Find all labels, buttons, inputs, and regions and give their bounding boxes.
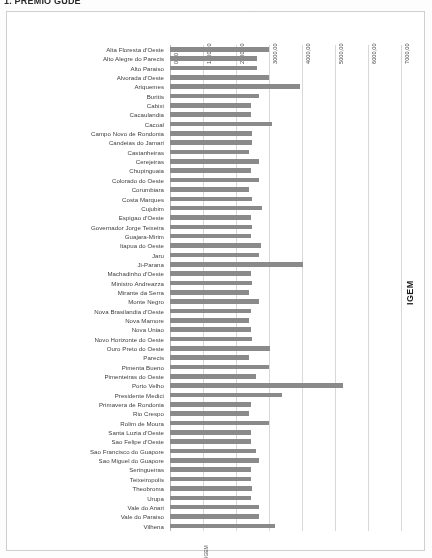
category-label: Cacaulandia [15, 110, 167, 119]
bar-row [170, 166, 417, 175]
bar [170, 327, 251, 332]
bar-row [170, 101, 417, 110]
bar-row [170, 344, 417, 353]
bar-row [170, 353, 417, 362]
bar-row [170, 176, 417, 185]
category-label: Corumbiara [15, 185, 167, 194]
bar [170, 411, 249, 416]
bar-row [170, 465, 417, 474]
bar [170, 477, 251, 482]
bottom-axis-label: IGEM [203, 545, 209, 558]
bar [170, 94, 259, 99]
bar-series-igem [170, 45, 417, 531]
bar-row [170, 251, 417, 260]
bar [170, 56, 257, 61]
bar [170, 75, 269, 80]
category-label: Espigao d'Oeste [15, 213, 167, 222]
bar [170, 430, 251, 435]
bar-row [170, 45, 417, 54]
bar-row [170, 419, 417, 428]
bar-row [170, 484, 417, 493]
bar [170, 421, 269, 426]
bar [170, 496, 251, 501]
bar [170, 355, 249, 360]
bar [170, 365, 269, 370]
plot-area [170, 45, 417, 531]
category-label: Novo Horizonte do Oeste [15, 335, 167, 344]
bar-row [170, 372, 417, 381]
category-label: Ministro Andreazza [15, 279, 167, 288]
bar-row [170, 335, 417, 344]
bar [170, 383, 343, 388]
category-label: Itapua do Oeste [15, 241, 167, 250]
bar [170, 271, 251, 276]
bar [170, 206, 262, 211]
bar [170, 84, 300, 89]
category-label: Vilhena [15, 522, 167, 531]
bar [170, 467, 251, 472]
chart-frame: 0,001000,002000,003000,004000,005000,006… [6, 11, 425, 551]
category-label: Sao Miguel do Guapore [15, 456, 167, 465]
bar-row [170, 241, 417, 250]
bar [170, 47, 269, 52]
bar-row [170, 223, 417, 232]
y-axis-category-labels: Alta Floresta d'OesteAlto Alegre do Pare… [15, 45, 167, 531]
category-label: Buritis [15, 92, 167, 101]
bar [170, 299, 259, 304]
category-label: Campo Novo de Rondonia [15, 129, 167, 138]
bar-row [170, 456, 417, 465]
bar-row [170, 185, 417, 194]
bar-row [170, 204, 417, 213]
category-label: Jaru [15, 251, 167, 260]
series-legend-label: IGEM [405, 280, 415, 305]
bar [170, 66, 257, 71]
category-label: Porto Velho [15, 381, 167, 390]
bar-row [170, 428, 417, 437]
category-label: Governador Jorge Teixeira [15, 223, 167, 232]
bar-row [170, 279, 417, 288]
category-label: Colorado do Oeste [15, 176, 167, 185]
bar [170, 131, 252, 136]
category-label: Vale do Paraiso [15, 512, 167, 521]
category-label: Theobroma [15, 484, 167, 493]
bar-row [170, 92, 417, 101]
bar-row [170, 64, 417, 73]
bar [170, 505, 259, 510]
category-label: Candeias do Jamari [15, 138, 167, 147]
bar-row [170, 129, 417, 138]
bar [170, 168, 251, 173]
bar [170, 458, 259, 463]
bar [170, 225, 252, 230]
bar [170, 393, 282, 398]
bar [170, 178, 259, 183]
bar-row [170, 297, 417, 306]
category-label: Presidente Medici [15, 391, 167, 400]
category-label: Vale do Anari [15, 503, 167, 512]
category-label: Nova Uniao [15, 325, 167, 334]
bar [170, 140, 252, 145]
bar-row [170, 269, 417, 278]
bar [170, 187, 249, 192]
x-axis-tick-labels: 0,001000,002000,003000,004000,005000,006… [7, 24, 432, 46]
category-label: Ouro Preto do Oeste [15, 344, 167, 353]
bar-row [170, 381, 417, 390]
bar [170, 150, 249, 155]
category-label: Castanheiras [15, 148, 167, 157]
category-label: Primavera de Rondonia [15, 400, 167, 409]
bar-row [170, 363, 417, 372]
bar-row [170, 325, 417, 334]
bar-row [170, 138, 417, 147]
bar [170, 243, 261, 248]
bar-row [170, 195, 417, 204]
category-label: Pimenteiras do Oeste [15, 372, 167, 381]
bar-row [170, 54, 417, 63]
category-label: Ariquemes [15, 82, 167, 91]
bar-row [170, 120, 417, 129]
category-label: Chupinguaia [15, 166, 167, 175]
bar [170, 234, 251, 239]
page-title: 1. PREMIO GUDE [4, 0, 81, 6]
category-label: Urupa [15, 494, 167, 503]
bar [170, 486, 252, 491]
category-label: Rio Crespo [15, 409, 167, 418]
bar [170, 112, 251, 117]
